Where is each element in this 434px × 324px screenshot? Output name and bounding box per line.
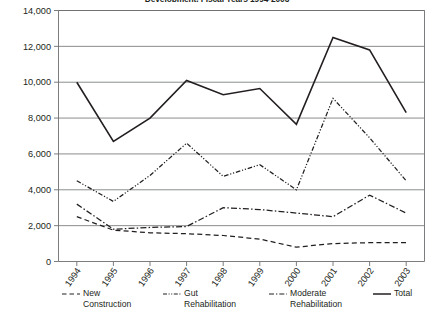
y-tick-label-6000: 6,000 bbox=[28, 149, 51, 159]
x-tick-label-1995: 1995 bbox=[100, 266, 120, 288]
x-tick-label-2003: 2003 bbox=[392, 266, 412, 288]
y-tick-label-4000: 4,000 bbox=[28, 185, 51, 195]
legend-item-gut-rehabilitation[interactable]: Gut Rehabilitation bbox=[163, 288, 236, 311]
y-tick-label-14000: 14,000 bbox=[23, 6, 51, 16]
legend-item-moderate-rehabilitation[interactable]: Moderate Rehabilitation bbox=[269, 288, 342, 311]
legend-swatch-gut-rehabilitation bbox=[163, 288, 181, 299]
series-line-new-construction bbox=[77, 217, 406, 247]
axes-group bbox=[59, 11, 425, 262]
legend-label-gut-rehabilitation: Gut Rehabilitation bbox=[184, 288, 236, 311]
gridlines-group bbox=[59, 11, 425, 226]
x-tick-label-1994: 1994 bbox=[63, 266, 83, 288]
x-tick-label-2002: 2002 bbox=[356, 266, 376, 288]
chart-page: Development, Fiscal Years 1994-2003 02,0… bbox=[0, 0, 434, 324]
y-tick-label-2000: 2,000 bbox=[28, 221, 51, 231]
x-tick-label-1998: 1998 bbox=[209, 266, 229, 288]
y-tick-label-8000: 8,000 bbox=[28, 113, 51, 123]
x-tick-label-1997: 1997 bbox=[173, 266, 193, 288]
legend-label-moderate-rehabilitation: Moderate Rehabilitation bbox=[290, 288, 342, 311]
x-tick-label-1996: 1996 bbox=[136, 266, 156, 288]
x-tick-label-2001: 2001 bbox=[319, 266, 339, 288]
legend-swatch-new-construction bbox=[62, 288, 80, 299]
x-tick-label-2000: 2000 bbox=[283, 266, 303, 288]
series-line-total bbox=[77, 37, 406, 141]
y-tick-label-0: 0 bbox=[46, 257, 51, 267]
legend-item-total[interactable]: Total bbox=[373, 288, 412, 299]
line-chart-plot: 02,0004,0006,0008,00010,00012,00014,000 … bbox=[0, 0, 434, 324]
y-tick-label-12000: 12,000 bbox=[23, 42, 51, 52]
x-axis-ticks bbox=[77, 262, 406, 267]
legend-swatch-total bbox=[373, 288, 391, 299]
y-axis-labels: 02,0004,0006,0008,00010,00012,00014,000 bbox=[23, 6, 51, 267]
y-tick-label-10000: 10,000 bbox=[23, 77, 51, 87]
series-lines-group bbox=[77, 37, 406, 247]
legend-item-new-construction[interactable]: New Construction bbox=[62, 288, 131, 311]
series-line-gut-rehabilitation bbox=[77, 98, 406, 201]
legend-label-new-construction: New Construction bbox=[83, 288, 131, 311]
chart-legend: New Construction Gut Rehabilitation Mode… bbox=[0, 288, 434, 324]
legend-swatch-moderate-rehabilitation bbox=[269, 288, 287, 299]
series-line-moderate-rehabilitation bbox=[77, 195, 406, 229]
x-tick-label-1999: 1999 bbox=[246, 266, 266, 288]
x-axis-labels: 1994199519961997199819992000200120022003 bbox=[63, 266, 412, 288]
y-axis-ticks bbox=[54, 11, 59, 262]
legend-label-total: Total bbox=[394, 288, 412, 299]
